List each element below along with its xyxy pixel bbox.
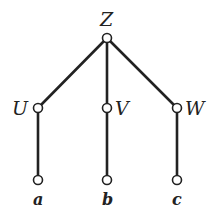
label-w: W (185, 97, 206, 119)
label-u: U (12, 97, 29, 119)
tree-svg: Z U V W a b c (0, 0, 219, 212)
node-u (34, 104, 43, 113)
label-b: b (102, 190, 113, 209)
edge-z-u (38, 38, 107, 108)
node-c (173, 176, 182, 185)
node-v (103, 104, 112, 113)
node-z (103, 34, 112, 43)
tree-diagram: Z U V W a b c (0, 0, 219, 212)
node-w (173, 104, 182, 113)
node-a (34, 176, 43, 185)
label-a: a (33, 190, 43, 209)
node-b (103, 176, 112, 185)
label-c: c (172, 190, 182, 209)
label-z: Z (99, 8, 114, 30)
label-v: V (115, 97, 131, 119)
